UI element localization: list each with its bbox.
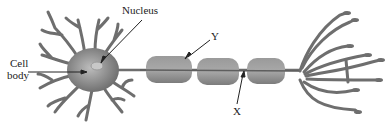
cell-body <box>67 48 119 92</box>
nucleus-label: Nucleus <box>122 5 158 16</box>
axon-terminals <box>300 13 380 112</box>
cell-body-label-line1: Cell <box>10 58 28 69</box>
neuron-diagram <box>0 0 390 131</box>
node-of-ranvier-label-x: X <box>233 106 241 117</box>
cell-body-label-line2: body <box>7 70 29 81</box>
myelin-sheath-label-y: Y <box>211 31 219 42</box>
